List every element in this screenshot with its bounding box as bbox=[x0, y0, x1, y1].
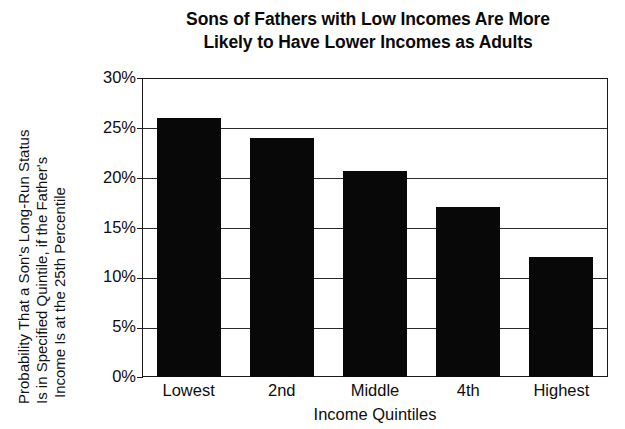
bar[interactable] bbox=[436, 207, 500, 377]
y-axis-tick-mark bbox=[137, 377, 143, 378]
chart-title: Sons of Fathers with Low Incomes Are Mor… bbox=[118, 8, 618, 54]
y-axis-tick-label: 15% bbox=[72, 219, 136, 236]
y-axis-tick-label: 10% bbox=[72, 268, 136, 285]
x-axis-tick-label: Highest bbox=[515, 380, 608, 400]
bar[interactable] bbox=[343, 171, 407, 377]
x-axis-tick-label: 2nd bbox=[235, 380, 328, 400]
y-axis-title-line-2: Is in Specified Quintile, if the Father'… bbox=[34, 157, 49, 404]
y-axis-title-line-3: Income Is at the 25th Percentile bbox=[52, 187, 67, 398]
y-axis-title-line-1: Probability That a Son's Long-Run Status bbox=[16, 130, 31, 404]
bar[interactable] bbox=[250, 138, 314, 377]
y-axis-tick-labels: 30%25%20%15%10%5%0% bbox=[72, 0, 136, 429]
x-axis-tick-labels: Lowest2ndMiddle4thHighest bbox=[142, 380, 608, 406]
bar-series bbox=[142, 78, 608, 377]
bar[interactable] bbox=[529, 257, 593, 377]
chart-title-line-2: Likely to Have Lower Incomes as Adults bbox=[118, 31, 618, 54]
chart-title-line-1: Sons of Fathers with Low Incomes Are Mor… bbox=[118, 8, 618, 31]
bar[interactable] bbox=[157, 118, 221, 377]
x-axis-tick-label: 4th bbox=[422, 380, 515, 400]
y-axis-tick-label: 25% bbox=[72, 119, 136, 136]
y-axis-title: Probability That a Son's Long-Run Status… bbox=[0, 0, 74, 429]
x-axis-tick-label: Middle bbox=[328, 380, 421, 400]
y-axis-tick-label: 0% bbox=[72, 368, 136, 385]
x-axis-title: Income Quintiles bbox=[142, 404, 608, 424]
bar-chart: Sons of Fathers with Low Incomes Are Mor… bbox=[0, 0, 625, 429]
x-axis-tick-label: Lowest bbox=[142, 380, 235, 400]
y-axis-tick-label: 30% bbox=[72, 69, 136, 86]
y-axis-tick-label: 20% bbox=[72, 169, 136, 186]
y-axis-tick-label: 5% bbox=[72, 318, 136, 335]
